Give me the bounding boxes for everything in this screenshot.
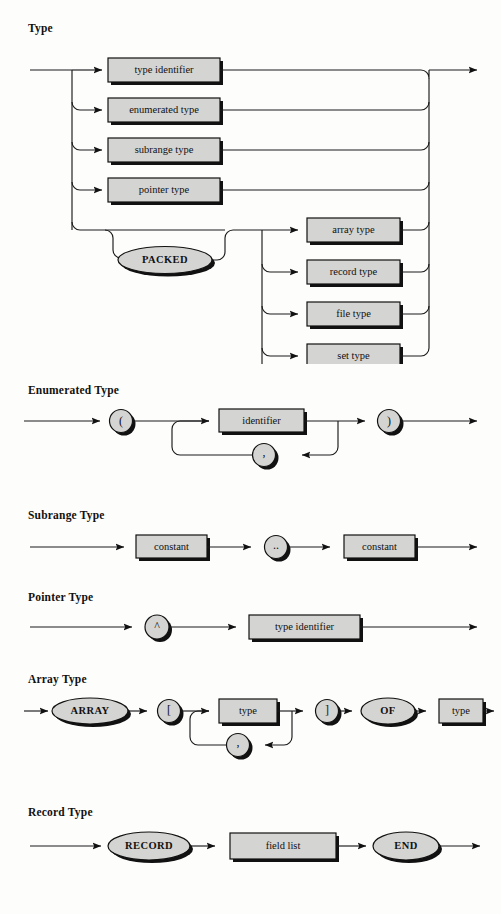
node-comma: ,: [227, 734, 253, 760]
diagram-enumerated-type: ( identifier ) ,: [0, 402, 501, 480]
diagram-caption-subrange-type: Subrange Type: [28, 509, 105, 521]
node-constant-low: constant: [136, 535, 210, 561]
node-record-type: record type: [307, 260, 403, 287]
node-subrange-type: subrange type: [108, 138, 223, 165]
node-comma: ,: [253, 444, 279, 470]
node-rparen: ): [378, 410, 404, 436]
diagram-array-type: ARRAY [ type ] OF: [0, 692, 501, 772]
node-record-keyword: RECORD: [108, 832, 193, 863]
node-label: constant: [154, 541, 189, 552]
node-label: ..: [273, 538, 279, 552]
diagram-caption-pointer-type: Pointer Type: [28, 591, 93, 603]
node-label: type: [239, 705, 257, 716]
node-array-type: array type: [307, 218, 403, 245]
diagram-record-type: RECORD field list END: [0, 825, 501, 873]
node-rbracket: ]: [316, 700, 342, 726]
node-label: set type: [337, 350, 370, 361]
node-label: identifier: [242, 415, 281, 426]
diagram-caption-record-type: Record Type: [28, 806, 93, 818]
node-lbracket: [: [158, 700, 184, 726]
diagram-caption-array-type: Array Type: [28, 673, 87, 685]
node-label: type identifier: [134, 64, 194, 75]
node-identifier: identifier: [219, 409, 307, 435]
syntax-diagram-page: Type type identifier enumerated type: [0, 0, 501, 914]
diagram-pointer-type: ^ type identifier: [0, 608, 501, 652]
node-field-list: field list: [230, 833, 339, 862]
node-of-keyword: OF: [361, 698, 418, 727]
node-label: ]: [325, 703, 329, 717]
node-label: ^: [154, 619, 160, 633]
node-enumerated-type: enumerated type: [108, 98, 223, 125]
node-label: END: [394, 840, 417, 851]
node-pointer-type: pointer type: [108, 178, 223, 205]
node-label: file type: [336, 308, 371, 319]
node-type-identifier: type identifier: [249, 615, 363, 642]
node-label: type: [452, 705, 470, 716]
node-range-dots: ..: [265, 536, 291, 562]
diagram-caption-enumerated-type: Enumerated Type: [28, 384, 119, 396]
node-index-type: type: [219, 699, 280, 726]
node-label: ): [387, 414, 391, 428]
node-label: (: [119, 414, 123, 428]
diagram-type: type identifier enumerated type subrange…: [0, 44, 501, 364]
node-label: ,: [263, 445, 266, 459]
node-label: RECORD: [125, 840, 173, 851]
node-label: type identifier: [275, 621, 335, 632]
diagram-caption-type: Type: [28, 22, 53, 34]
node-constant-high: constant: [344, 535, 418, 561]
node-label: ,: [237, 735, 240, 749]
node-set-type: set type: [307, 344, 403, 364]
node-label: field list: [266, 840, 301, 851]
node-array-keyword: ARRAY: [52, 698, 131, 727]
node-label: array type: [332, 224, 375, 235]
node-label: pointer type: [139, 184, 190, 195]
node-file-type: file type: [307, 302, 403, 329]
node-end-keyword: END: [373, 832, 442, 863]
node-label: record type: [330, 266, 378, 277]
node-label: OF: [380, 705, 395, 716]
node-packed: PACKED: [118, 247, 215, 277]
node-label: [: [167, 703, 171, 717]
node-caret: ^: [145, 615, 172, 642]
diagram-subrange-type: constant .. constant: [0, 528, 501, 572]
node-label: enumerated type: [129, 104, 199, 115]
node-label: subrange type: [135, 144, 194, 155]
node-type-identifier: type identifier: [108, 58, 223, 85]
node-lparen: (: [110, 410, 136, 436]
node-label: ARRAY: [71, 705, 110, 716]
node-label: constant: [362, 541, 397, 552]
node-label: PACKED: [142, 254, 188, 265]
node-element-type: type: [439, 699, 486, 726]
